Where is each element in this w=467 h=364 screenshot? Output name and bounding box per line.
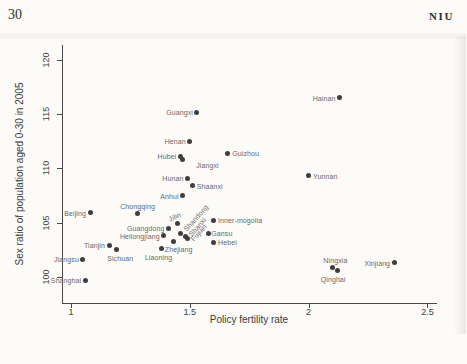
point-label-hebei: Hebei — [218, 239, 237, 246]
x-tick-label: 2 — [306, 307, 311, 317]
point-label-jiangxi: Jiangxi — [196, 161, 219, 168]
point-label-henan: Henan — [165, 138, 186, 145]
point-label-sichuan: Sichuan — [107, 255, 133, 262]
point-label-liaoning: Liaoning — [145, 254, 172, 261]
x-tick-label: 2.5 — [421, 307, 434, 317]
y-axis-title: Sex ratio of population aged 0-30 in 200… — [14, 83, 25, 266]
point-label-beijing: Beijing — [64, 209, 86, 216]
y-axis-line — [62, 45, 63, 303]
point-label-shanghai: Shanghai — [51, 277, 81, 284]
point-label-anhui: Anhui — [160, 192, 178, 199]
data-point-hebei — [211, 240, 216, 245]
data-point-hunan — [185, 176, 190, 181]
data-point-liaoning — [171, 239, 176, 244]
data-point-guangxi — [194, 110, 199, 115]
point-label-hubei: Hubei — [157, 153, 176, 160]
data-point-zhejiang — [159, 246, 164, 251]
point-label-heilongjiang: Heilongjiang — [120, 232, 160, 239]
x-tick-label: 1 — [68, 307, 73, 317]
point-label-guangxi: Guangxi — [166, 109, 193, 116]
point-label-tianjin: Tianjin — [84, 242, 105, 249]
scatter-plot: Sex ratio of population aged 0-30 in 200… — [0, 0, 467, 364]
data-point-heilongjiang — [161, 233, 166, 238]
point-label-zhejiang: Zhejiang — [165, 245, 193, 252]
data-point-jiangsu — [80, 257, 85, 262]
data-point-inner-mogolia — [211, 218, 216, 223]
y-tick — [57, 114, 62, 115]
data-point-yunnan — [306, 173, 311, 178]
data-point-sichuan — [114, 247, 119, 252]
y-tick-label: 120 — [41, 52, 51, 67]
point-label-ningxia: Ningxia — [323, 257, 347, 264]
point-label-gansu: Gansu — [211, 230, 232, 237]
y-tick-label: 110 — [41, 161, 51, 175]
data-point-hainan — [337, 95, 342, 100]
point-label-qinghai: Qinghai — [321, 276, 346, 283]
x-axis-line — [62, 303, 437, 304]
data-point-shaanxi — [190, 183, 195, 188]
point-label-shaanxi: Shaanxi — [197, 182, 223, 189]
y-tick — [57, 60, 62, 61]
point-label-chongqing: Chongqing — [120, 203, 155, 210]
point-label-hunan: Hunan — [162, 175, 183, 182]
data-point-henan — [187, 139, 192, 144]
data-point-guangdong — [166, 226, 171, 231]
point-label-guangdong: Guangdong — [127, 225, 165, 232]
point-label-hainan: Hainan — [313, 94, 336, 101]
data-point-guizhou — [225, 151, 230, 156]
y-tick-label: 105 — [41, 215, 51, 230]
point-label-inner-mogolia: Inner-mogolia — [218, 217, 262, 224]
data-point-qinghai — [335, 268, 340, 273]
y-tick-label: 115 — [41, 107, 51, 121]
point-label-xinjiang: Xinjiang — [364, 259, 390, 266]
data-point-chongqing — [135, 211, 140, 216]
x-tick-label: 1.5 — [184, 307, 197, 317]
y-tick — [57, 223, 62, 224]
data-point-tianjin — [107, 243, 112, 248]
point-label-guizhou: Guizhou — [232, 150, 259, 157]
scanned-book-page: 30 NIU Sex ratio of population aged 0-30… — [0, 0, 467, 364]
data-point-jilin — [175, 221, 180, 226]
data-point-anhui — [180, 193, 185, 198]
data-point-jiangxi — [180, 157, 185, 162]
data-point-beijing — [88, 210, 93, 215]
y-tick-label: 100 — [41, 269, 51, 284]
point-label-jiangsu: Jiangsu — [54, 256, 79, 263]
y-tick — [57, 168, 62, 169]
data-point-shanghai — [83, 278, 88, 283]
point-label-yunnan: Yunnan — [313, 172, 337, 179]
data-point-xinjiang — [392, 260, 397, 265]
x-axis-title: Policy fertility rate — [210, 314, 288, 325]
